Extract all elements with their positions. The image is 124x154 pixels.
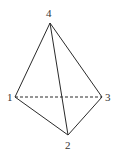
edges-group [15, 23, 102, 135]
edge-4-3 [50, 23, 102, 97]
edge-4-2 [50, 23, 68, 135]
edge-4-1 [15, 23, 50, 97]
vertex-label-3: 3 [105, 91, 111, 103]
edge-1-2 [15, 97, 68, 135]
vertex-label-2: 2 [65, 139, 71, 151]
tetrahedron-diagram: 1234 [0, 0, 124, 154]
vertex-label-1: 1 [7, 91, 13, 103]
vertex-label-4: 4 [46, 7, 52, 19]
diagram-svg: 1234 [0, 0, 124, 154]
edge-3-2 [68, 97, 102, 135]
